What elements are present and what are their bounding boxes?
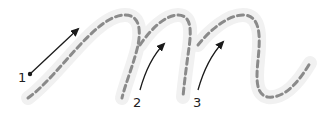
stroke-3: 3 [193,42,223,110]
letter-m-tracing-diagram: 1 2 3 [0,0,333,122]
stroke-2-label: 2 [133,95,141,110]
stroke-1-label: 1 [18,70,26,85]
stroke-3-label: 3 [193,95,201,110]
letter-path-dashed [28,15,310,98]
